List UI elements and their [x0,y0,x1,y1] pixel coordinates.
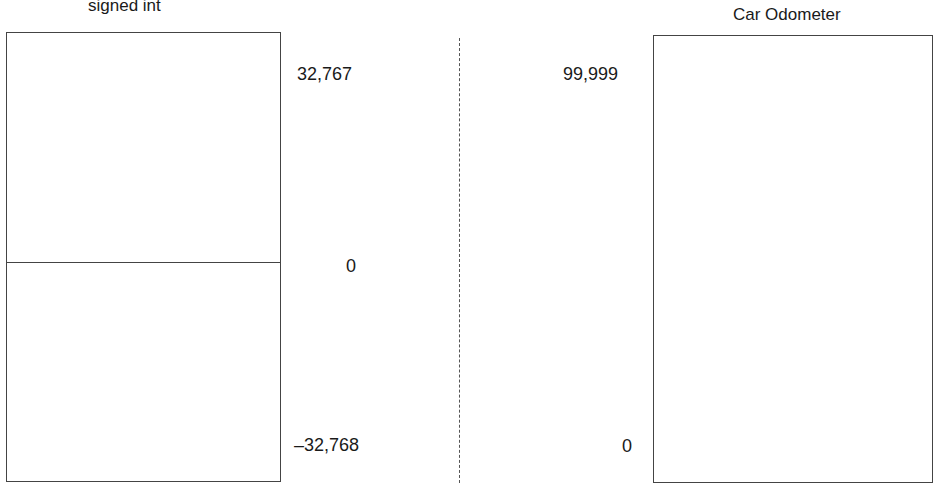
panel-separator-dashed-line [459,38,460,483]
signed-int-zero-label: 0 [346,256,356,276]
signed-int-title: signed int [88,0,161,16]
signed-int-max-label: 32,767 [297,64,352,84]
car-odometer-title: Car Odometer [733,5,841,25]
car-odometer-min-label: 0 [622,436,632,456]
signed-int-range-box [6,32,281,482]
car-odometer-max-label: 99,999 [563,64,618,84]
signed-int-min-label: –32,768 [294,435,359,455]
signed-int-zero-divider [6,262,281,263]
car-odometer-range-box [653,35,933,483]
